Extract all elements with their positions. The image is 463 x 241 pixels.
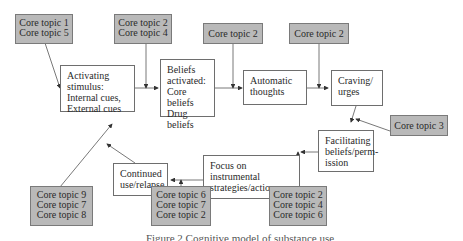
box-line: Facilitating bbox=[325, 135, 367, 146]
box-line: activated: bbox=[167, 75, 208, 86]
box-line: Drug beliefs bbox=[167, 108, 208, 130]
topic-line: Core topic 2 bbox=[206, 29, 260, 39]
automatic-thoughts-box: Automatic thoughts bbox=[243, 70, 307, 105]
core-topics-2-4-6-box: Core topic 2 Core topic 4 Core topic 6 bbox=[269, 186, 327, 226]
topic-line: Core topic 5 bbox=[18, 28, 70, 38]
box-line: Internal cues, bbox=[67, 92, 128, 103]
box-line: Beliefs bbox=[167, 64, 208, 75]
core-topics-9-7-8-box: Core topic 9 Core topic 7 Core topic 8 bbox=[30, 186, 93, 226]
facilitating-beliefs-box: Facilitating beliefs/perm- ission bbox=[318, 130, 374, 172]
beliefs-activated-box: Beliefs activated: Core beliefs Drug bel… bbox=[160, 59, 215, 117]
topic-line: Core topic 6 bbox=[272, 210, 324, 220]
box-line: stimulus: bbox=[67, 81, 128, 92]
box-line: urges bbox=[338, 86, 376, 97]
box-line: Automatic bbox=[250, 75, 300, 86]
box-line: Craving/ bbox=[338, 75, 376, 86]
box-line: External cues bbox=[67, 103, 128, 114]
topic-line: Core topic 2 bbox=[292, 29, 346, 39]
core-topic-3-box: Core topic 3 bbox=[390, 115, 448, 136]
core-topics-1-5-box: Core topic 1 Core topic 5 bbox=[15, 14, 73, 44]
box-line: instrumental bbox=[210, 171, 293, 182]
topic-line: Core topic 4 bbox=[117, 28, 169, 38]
box-line: Core beliefs bbox=[167, 86, 208, 108]
figure-caption: Figure 2 Cognitive model of substance us… bbox=[130, 230, 350, 241]
box-line: Continued bbox=[120, 168, 161, 179]
core-topics-6-7-2-box: Core topic 6 Core topic 7 Core topic 2 bbox=[151, 186, 211, 226]
core-topic-2-craving-box: Core topic 2 bbox=[289, 23, 349, 44]
core-topic-2-automatic-box: Core topic 2 bbox=[203, 23, 263, 44]
topic-line: Core topic 8 bbox=[33, 210, 90, 220]
box-line: thoughts bbox=[250, 86, 300, 97]
box-line: ission bbox=[325, 157, 367, 168]
box-line: Focus on bbox=[210, 160, 293, 171]
box-line: Activating bbox=[67, 70, 128, 81]
box-line: beliefs/perm- bbox=[325, 146, 367, 157]
activating-stimulus-box: Activating stimulus: Internal cues, Exte… bbox=[60, 65, 135, 112]
topic-line: Core topic 3 bbox=[393, 121, 445, 131]
topic-line: Core topic 2 bbox=[154, 210, 208, 220]
craving-urges-box: Craving/ urges bbox=[331, 70, 383, 106]
core-topics-2-4-box: Core topic 2 Core topic 4 bbox=[114, 14, 172, 44]
